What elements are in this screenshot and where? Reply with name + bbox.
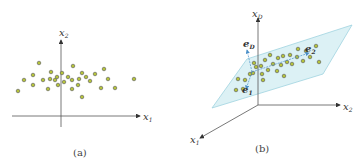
axis-x2-label: x2 <box>59 27 69 39</box>
data-point <box>56 83 60 87</box>
data-point <box>70 87 74 91</box>
axis-xD-label: xD <box>252 8 263 20</box>
data-point <box>31 73 35 77</box>
data-point <box>31 83 35 87</box>
axis-x2-label-b: x2 <box>343 101 353 113</box>
data-point <box>71 64 75 68</box>
data-point <box>66 75 70 79</box>
data-point <box>48 77 52 81</box>
data-point <box>106 77 110 81</box>
data-point <box>268 53 272 57</box>
data-point <box>99 86 103 90</box>
data-points-a <box>16 61 136 99</box>
data-point <box>70 78 74 82</box>
data-point <box>88 79 92 83</box>
data-point <box>266 68 270 72</box>
data-point <box>113 86 117 90</box>
data-point <box>46 87 50 91</box>
data-point <box>288 53 292 57</box>
axis-x1-label: x1 <box>143 111 152 123</box>
data-point <box>60 71 64 75</box>
vector-eD-label: eD <box>243 38 255 50</box>
data-point <box>77 77 81 81</box>
data-point <box>22 78 26 82</box>
data-point <box>279 63 283 67</box>
data-point <box>282 74 286 78</box>
caption-b: (b) <box>255 143 269 154</box>
data-point <box>296 47 300 51</box>
data-point <box>84 75 88 79</box>
data-point <box>285 60 289 64</box>
data-point <box>301 59 305 63</box>
data-point <box>55 75 59 79</box>
caption-a: (a) <box>73 147 87 158</box>
data-point <box>80 71 84 75</box>
data-point <box>37 61 41 65</box>
data-point <box>236 77 240 81</box>
data-point <box>132 77 136 81</box>
data-point <box>93 72 97 76</box>
data-point <box>259 64 263 68</box>
data-point <box>263 58 267 62</box>
panel-a: x2 x1 (a) <box>12 27 152 158</box>
data-point <box>254 65 258 69</box>
data-point <box>102 67 106 71</box>
data-point <box>80 95 84 99</box>
data-point <box>62 80 66 84</box>
data-point <box>295 55 299 59</box>
data-point <box>308 55 312 59</box>
axis-x1-b <box>200 105 258 138</box>
data-point <box>275 69 279 73</box>
data-point <box>234 88 238 92</box>
panel-b: xD x2 x1 eD e2 e1 (b) <box>190 8 353 154</box>
data-point <box>252 61 256 65</box>
data-point <box>260 72 264 76</box>
data-point <box>16 89 20 93</box>
axis-x1-label-b: x1 <box>190 134 199 146</box>
data-point <box>281 54 285 58</box>
data-point <box>76 83 80 87</box>
data-point <box>261 78 265 82</box>
data-point <box>41 78 45 82</box>
data-point <box>49 70 53 74</box>
data-point <box>276 56 280 60</box>
data-point <box>290 62 294 66</box>
pca-diagram: x2 x1 (a) xD x2 x1 eD e2 e1 (b) <box>0 0 362 168</box>
data-point <box>243 78 247 82</box>
data-point <box>317 60 321 64</box>
